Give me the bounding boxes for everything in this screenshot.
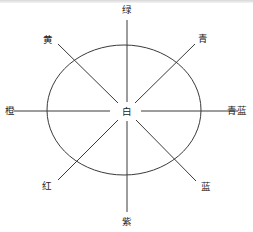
label-red: 红 xyxy=(42,181,52,191)
label-orange: 橙 xyxy=(5,106,15,116)
spoke-blue xyxy=(136,120,196,181)
label-cyan: 青 xyxy=(198,34,208,44)
label-white-center: 白 xyxy=(122,107,132,117)
spoke-cyan xyxy=(135,44,195,103)
label-yellow: 黄 xyxy=(43,35,53,45)
label-green: 绿 xyxy=(122,5,132,15)
label-cyan-blue: 青蓝 xyxy=(227,106,247,116)
label-blue: 蓝 xyxy=(201,182,211,192)
spoke-red xyxy=(58,120,118,180)
label-purple: 紫 xyxy=(122,217,132,227)
